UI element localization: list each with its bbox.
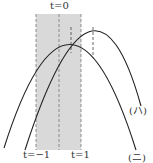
label-t-minus-1: t=−1 <box>23 149 50 160</box>
label-t-1: t=1 <box>71 149 90 160</box>
label-curve-ha: (ハ) <box>129 102 147 117</box>
shaded-interval <box>36 14 81 150</box>
parabola-diagram <box>0 0 153 163</box>
label-curve-ni: (ニ) <box>128 149 146 163</box>
diagram: t=0 t=−1 t=1 (ハ) (ニ) <box>0 0 153 163</box>
label-t-0: t=0 <box>50 0 69 11</box>
